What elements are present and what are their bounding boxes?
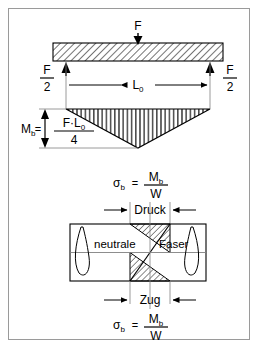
sigma-bottom-equals: =	[132, 319, 138, 331]
sigma-top-numerator: Mb	[149, 170, 164, 186]
force-label: F	[134, 19, 141, 33]
bending-diagram-svg: F F 2	[9, 9, 251, 341]
left-break-symbol	[75, 227, 89, 275]
sigma-bottom-numerator: Mb	[149, 312, 164, 328]
moment-formula-group: Mb = F·L0 4	[21, 116, 94, 147]
sigma-bottom-denominator: W	[150, 329, 162, 341]
applied-force-group: F	[134, 19, 143, 45]
cross-section-group: neutrale Faser	[70, 202, 206, 309]
right-half-force-numerator: F	[226, 63, 233, 77]
left-half-force-denominator: 2	[44, 80, 51, 94]
neutral-fiber-label-right: Faser	[159, 238, 189, 250]
beam-group	[53, 43, 223, 61]
moment-symbol-label: Mb	[21, 122, 36, 138]
sigma-bottom-symbol: σb	[113, 318, 125, 334]
left-half-force-label: F 2	[40, 63, 54, 94]
sigma-top-denominator: W	[150, 187, 162, 201]
sigma-top-symbol: σb	[113, 176, 125, 192]
stress-formula-bottom-group: σb = Mb W	[113, 312, 168, 341]
compression-label: Druck	[134, 203, 166, 217]
span-label: L0	[132, 78, 144, 94]
beam-body	[53, 43, 223, 61]
diagram-stage: F F 2	[9, 9, 251, 341]
neutral-fiber-label-left: neutrale	[94, 238, 136, 250]
right-half-force-label: F 2	[223, 63, 237, 94]
moment-arrow-up	[41, 109, 49, 119]
sigma-top-equals: =	[132, 177, 138, 189]
moment-equals-sign: =	[35, 123, 41, 135]
moment-denominator: 4	[71, 133, 78, 147]
diagram-frame: F F 2	[8, 8, 250, 340]
right-break-symbol	[185, 227, 199, 275]
left-half-force-numerator: F	[43, 63, 50, 77]
moment-triangle	[66, 109, 210, 148]
right-half-force-denominator: 2	[227, 80, 234, 94]
span-dimension-group: L0	[66, 61, 210, 109]
stress-formula-top-group: σb = Mb W	[113, 170, 168, 201]
tension-label: Zug	[140, 293, 161, 307]
moment-arrow-down	[41, 138, 49, 148]
